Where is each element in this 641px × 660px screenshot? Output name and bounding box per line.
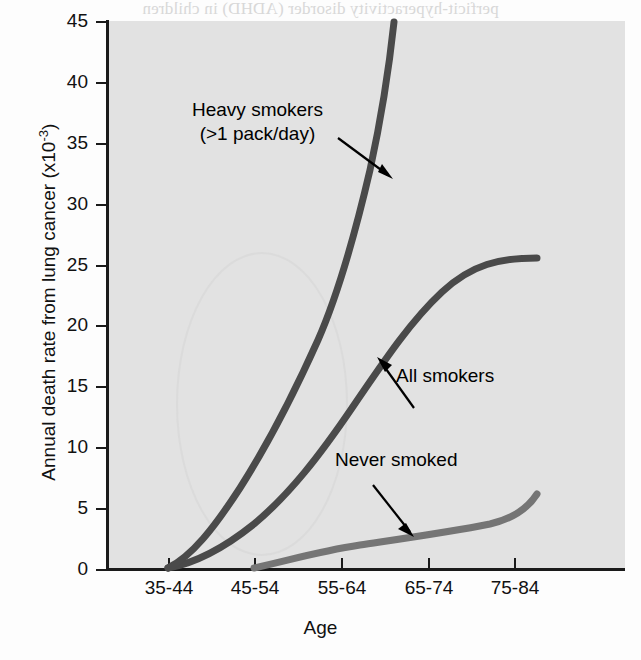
annotation-heavy-smokers-line1: Heavy smokers (192, 98, 323, 122)
y-axis-tick (96, 21, 108, 23)
plot-area (109, 21, 625, 570)
y-axis-title-end: ) (38, 124, 59, 130)
y-axis-title-exponent: -3 (36, 130, 51, 142)
y-axis-tick (96, 447, 108, 449)
x-axis-tick (428, 558, 430, 570)
y-axis-tick (96, 325, 108, 327)
x-axis-tick-label: 75-84 (455, 577, 575, 599)
y-axis-tick (96, 569, 108, 571)
y-axis-tick (96, 82, 108, 84)
x-axis-tick (254, 558, 256, 570)
annotation-never-smoked: Never smoked (335, 448, 458, 472)
y-axis-tick (96, 143, 108, 145)
y-axis-title: Annual death rate from lung cancer (x10-… (36, 22, 60, 582)
annotation-all-smokers: All smokers (396, 364, 494, 388)
y-axis-tick (96, 204, 108, 206)
y-axis-tick (96, 508, 108, 510)
y-axis-line (106, 20, 109, 571)
x-axis-tick (168, 558, 170, 570)
y-axis-tick (96, 386, 108, 388)
x-axis-line (106, 568, 625, 571)
x-axis-title: Age (0, 617, 641, 639)
y-axis-title-main: Annual death rate from lung cancer (x10 (38, 142, 59, 481)
x-axis-tick (514, 558, 516, 570)
y-axis-tick (96, 265, 108, 267)
annotation-heavy-smokers: Heavy smokers (>1 pack/day) (192, 98, 323, 146)
annotation-heavy-smokers-line2: (>1 pack/day) (192, 122, 323, 146)
ghost-line: perficit-hyperactivity disorder (ADHD) i… (0, 0, 641, 22)
x-axis-tick (341, 558, 343, 570)
chart-page: perficit-hyperactivity disorder (ADHD) i… (0, 0, 641, 660)
